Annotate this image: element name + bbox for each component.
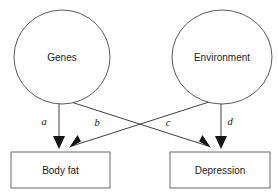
node-environment: Environment	[172, 10, 272, 104]
arrowhead-b	[199, 135, 211, 148]
path-group-b	[71, 102, 211, 148]
node-genes: Genes	[14, 10, 110, 104]
environment-label: Environment	[194, 52, 250, 63]
path-coefficient-d: d	[227, 116, 233, 127]
arrowhead-a	[53, 136, 65, 149]
arrowhead-c	[69, 135, 81, 148]
path-diagram-svg: Genes Environment Body fat Depression a …	[0, 0, 278, 195]
path-group-d	[215, 103, 227, 149]
path-group-a	[53, 103, 65, 149]
node-depression: Depression	[170, 152, 270, 188]
path-coefficient-c: c	[166, 117, 171, 128]
path-diagram-canvas: Genes Environment Body fat Depression a …	[0, 0, 278, 195]
path-coefficient-a: a	[41, 116, 46, 127]
arrowhead-d	[215, 136, 227, 149]
body-fat-label: Body fat	[42, 165, 79, 176]
path-coefficient-b: b	[94, 117, 99, 128]
genes-label: Genes	[47, 52, 76, 63]
path-group-c	[69, 102, 209, 148]
node-body-fat: Body fat	[11, 152, 110, 188]
depression-label: Depression	[195, 165, 246, 176]
